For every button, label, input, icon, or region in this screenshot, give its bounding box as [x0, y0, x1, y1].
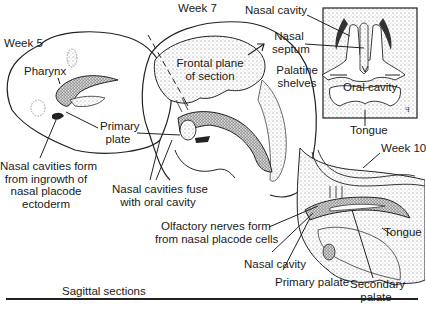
palatine-shelves-label: Palatine shelves	[274, 64, 320, 89]
nasal-cavities-fuse-label: Nasal cavities fuse with oral cavity	[112, 183, 204, 208]
frontal-section-drawing: ꟻ	[305, 8, 417, 126]
olfactory-nerves-line2: from nasal placode cells	[155, 233, 277, 246]
palatine-shelves-line2: shelves	[274, 77, 320, 90]
nasal-cavities-form-label: Nasal cavities form from ingrowth of nas…	[0, 160, 92, 210]
pharynx-label: Pharynx	[24, 65, 66, 78]
week10-nasal-cavity-label: Nasal cavity	[244, 258, 306, 271]
nasal-cavities-form-line1: Nasal cavities form	[0, 160, 92, 173]
primary-palate-label: Primary palate	[275, 276, 349, 289]
week10-stage-label: Week 10	[381, 142, 426, 155]
secondary-palate-line1: Secondary	[350, 278, 402, 291]
oral-cavity-label: Oral cavity	[343, 81, 397, 94]
palatine-shelves-line1: Palatine	[274, 64, 320, 77]
frontal-plane-line2: of section	[175, 70, 245, 83]
week5-primary-plate-label: Primary plate	[100, 120, 136, 145]
nasal-cavities-fuse-line1: Nasal cavities fuse	[112, 183, 204, 196]
week5-stage-label: Week 5	[4, 37, 43, 50]
nasal-cavities-form-line2: from ingrowth of	[0, 173, 92, 186]
week10-tongue-label: Tongue	[384, 226, 422, 239]
frontal-plane-label: Frontal plane of section	[175, 57, 245, 82]
nasal-septum-label: Nasal septum	[272, 30, 306, 55]
olfactory-nerves-label: Olfactory nerves form from nasal placode…	[155, 220, 277, 245]
frontal-nasal-cavity-label: Nasal cavity	[245, 4, 307, 17]
nasal-cavities-fuse-line2: with oral cavity	[112, 196, 204, 209]
week5-embryo-drawing	[7, 32, 171, 158]
svg-text:ꟻ: ꟻ	[405, 106, 410, 114]
primary-plate-line2: plate	[100, 133, 136, 146]
nasal-septum-line2: septum	[272, 43, 306, 56]
nasal-cavities-form-line4: ectoderm	[0, 198, 92, 211]
nasal-septum-line1: Nasal	[272, 30, 306, 43]
figure-caption: Sagittal sections	[62, 285, 146, 298]
frontal-plane-line1: Frontal plane	[175, 57, 245, 70]
primary-plate-line1: Primary	[100, 120, 136, 133]
week7-stage-label: Week 7	[178, 2, 217, 15]
secondary-palate-line2: palate	[350, 291, 402, 304]
olfactory-nerves-line1: Olfactory nerves form	[155, 220, 277, 233]
nasal-cavities-form-line3: nasal placode	[0, 185, 92, 198]
bottom-rule	[6, 298, 418, 300]
frontal-tongue-label: Tongue	[350, 124, 388, 137]
